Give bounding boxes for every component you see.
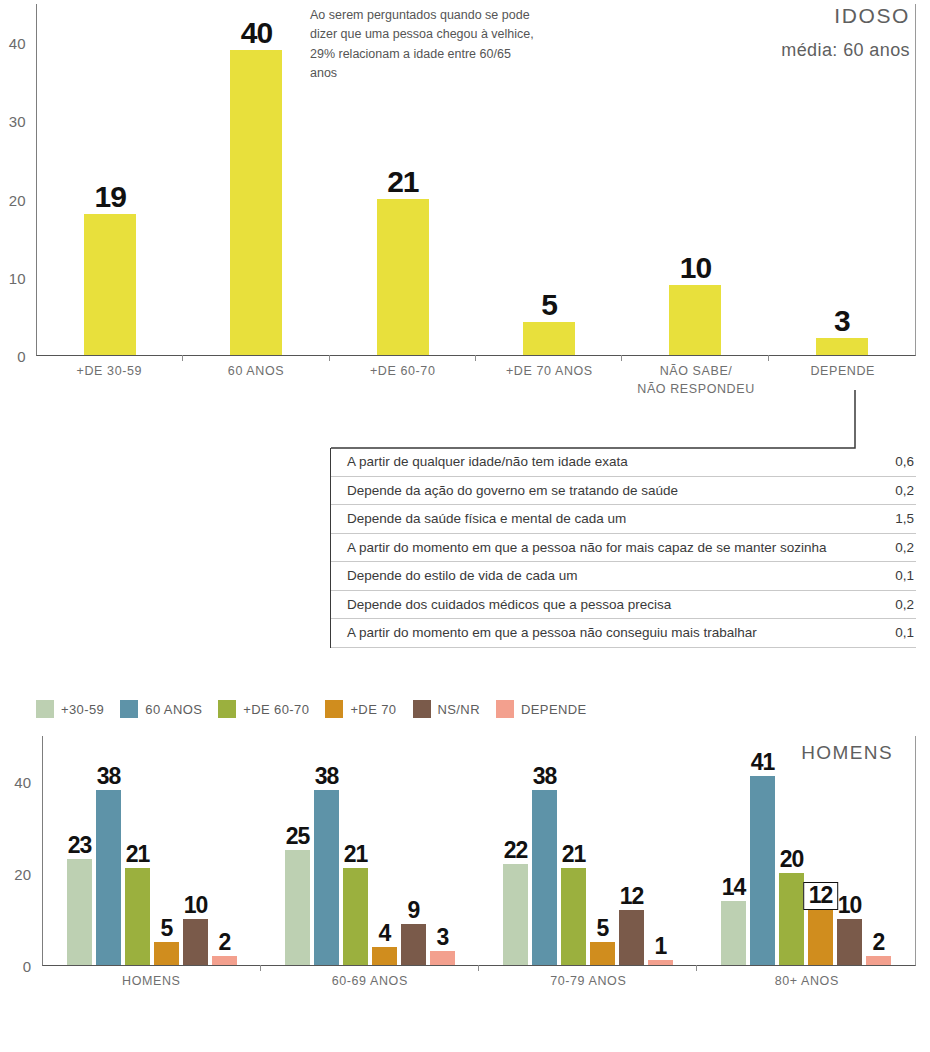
bottom-chart-bar[interactable]: 10 [837,919,862,965]
bottom-chart-bar[interactable]: 3 [430,951,455,965]
bottom-chart-bar-value: 12 [620,885,644,908]
table-row-value: 0,2 [895,597,914,612]
bottom-chart-bar[interactable]: 38 [532,790,557,965]
top-chart-bar-column[interactable]: 19 [37,4,183,355]
bottom-chart-bar[interactable]: 21 [125,868,150,965]
table-row-value: 0,1 [895,568,914,583]
table-row-label: Depende do estilo de vida de cada um [347,567,577,585]
legend-label: DEPENDE [521,702,587,717]
table-row: Depende da saúde física e mental de cada… [331,505,916,534]
bottom-chart-bar[interactable]: 12 [619,910,644,965]
bottom-chart-bar-value: 10 [184,894,208,917]
table-row-value: 0,6 [895,454,914,469]
bottom-chart-bar[interactable]: 25 [285,850,310,965]
legend-item[interactable]: +30-59 [36,700,104,718]
bottom-chart-bar-value: 2 [219,931,231,954]
top-chart-y-tick: 30 [9,113,26,130]
bottom-chart-bar[interactable]: 21 [561,868,586,965]
x-tick-line: +DE 70 ANOS [476,362,623,380]
top-chart-x-tick: 60 ANOS [183,362,330,398]
table-row-value: 0,2 [895,540,914,555]
top-chart-bar[interactable]: 40 [230,50,282,355]
bottom-chart-bar-value: 38 [533,765,557,788]
bottom-chart-bar-value: 41 [751,751,775,774]
bottom-chart-y-axis: 02040 [0,736,38,968]
bottom-chart-bar-value: 5 [597,917,609,940]
legend-swatch-icon [496,700,514,718]
x-tick-line: NÃO RESPONDEU [623,380,770,398]
bottom-chart-bar-value: 21 [562,843,586,866]
bottom-chart-y-tick: 0 [23,958,31,975]
bottom-chart-bar[interactable]: 5 [154,942,179,965]
bottom-chart-bar[interactable]: 38 [314,790,339,965]
bottom-chart-bar-value: 38 [315,765,339,788]
legend-item[interactable]: 60 ANOS [120,700,202,718]
top-chart-bar[interactable]: 10 [669,285,721,355]
legend-label: +DE 70 [350,702,396,717]
legend-item[interactable]: +DE 60-70 [218,700,309,718]
top-chart-bar-value: 3 [834,306,850,336]
x-tick-line: NÃO SABE/ [623,362,770,380]
bottom-chart-y-tick: 20 [14,866,31,883]
bottom-chart-bar-value: 1 [655,935,667,958]
top-chart-y-tick: 20 [9,191,26,208]
bottom-chart-bar[interactable]: 41 [750,776,775,965]
bottom-chart-bar-value: 3 [437,926,449,949]
top-chart-bar[interactable]: 5 [523,322,575,355]
bottom-chart-bar[interactable]: 5 [590,942,615,965]
top-chart-bar-column[interactable]: 40 [183,4,329,355]
bottom-chart-bar[interactable]: 9 [401,924,426,965]
top-chart-bar[interactable]: 3 [816,338,868,355]
bottom-chart-bar-value: 21 [126,843,150,866]
bottom-chart-bar[interactable]: 38 [96,790,121,965]
top-chart-y-tick: 0 [17,348,26,365]
legend-swatch-icon [120,700,138,718]
table-row-label: A partir do momento em que a pessoa não … [347,539,827,557]
top-bar-chart: 010203040 1940215103 +DE 30-5960 ANOS+DE… [0,0,930,430]
bottom-chart-bar[interactable]: 4 [372,947,397,965]
bottom-chart-bar[interactable]: 22 [503,864,528,965]
bottom-chart-bar[interactable]: 2 [212,956,237,965]
top-chart-x-tick: +DE 70 ANOS [476,362,623,398]
bottom-chart-x-tick: 70-79 ANOS [479,974,698,988]
bottom-chart-bar[interactable]: 14 [721,901,746,965]
table-row: A partir do momento em que a pessoa não … [331,534,916,563]
table-row: Depende do estilo de vida de cada um0,1 [331,562,916,591]
legend-item[interactable]: NS/NR [413,700,480,718]
bottom-chart-bar-value: 9 [408,899,420,922]
bottom-chart-bar[interactable]: 12 [808,910,833,965]
top-chart-bar-value: 10 [680,253,711,283]
top-chart-bar-value: 19 [94,182,125,212]
bottom-chart-bar[interactable]: 10 [183,919,208,965]
table-row: A partir de qualquer idade/não tem idade… [331,448,916,477]
top-chart-bar[interactable]: 21 [377,199,429,355]
legend-item[interactable]: DEPENDE [496,700,587,718]
bottom-chart-bar[interactable]: 1 [648,960,673,965]
bottom-chart-bar-value: 4 [379,922,391,945]
table-row-value: 0,1 [895,625,914,640]
bottom-chart-bar[interactable]: 23 [67,859,92,965]
legend-item[interactable]: +DE 70 [325,700,396,718]
bottom-chart-y-tick: 40 [14,774,31,791]
bottom-bar-chart: 02040 HOMENS 233821510225382149322382151… [0,736,930,1036]
bottom-chart-bar[interactable]: 20 [779,873,804,965]
top-chart-bar-column[interactable]: 10 [622,4,768,355]
bottom-chart-group: 14412012102 [697,736,915,965]
legend-swatch-icon [218,700,236,718]
bottom-chart-bar-value: 20 [780,848,804,871]
bottom-chart-bar-value: 25 [286,825,310,848]
x-tick-line: 60 ANOS [183,362,330,380]
top-chart-subtitle: média: 60 anos [781,40,910,61]
bottom-chart-bar-value: 2 [873,931,885,954]
top-chart-x-tick: +DE 30-59 [36,362,183,398]
legend-swatch-icon [325,700,343,718]
top-chart-x-tick: +DE 60-70 [329,362,476,398]
top-chart-title: IDOSO [834,4,910,28]
bottom-chart-legend: +30-5960 ANOS+DE 60-70+DE 70NS/NRDEPENDE [36,700,587,718]
table-row: A partir do momento em que a pessoa não … [331,619,916,648]
table-row-value: 0,2 [895,483,914,498]
legend-label: +30-59 [61,702,104,717]
top-chart-bar[interactable]: 19 [84,214,136,355]
bottom-chart-bar[interactable]: 2 [866,956,891,965]
bottom-chart-bar[interactable]: 21 [343,868,368,965]
